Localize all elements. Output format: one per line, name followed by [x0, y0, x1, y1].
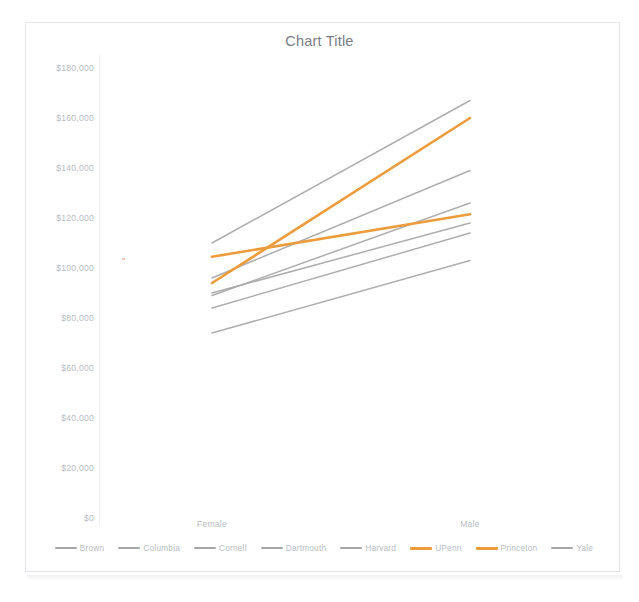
legend-item-label: Yale [576, 543, 593, 553]
legend-swatch-icon [55, 547, 77, 549]
legend-item-label: Dartmouth [286, 543, 327, 553]
legend-item-label: UPenn [435, 543, 461, 553]
legend-swatch-icon [261, 547, 283, 549]
x-axis-category-label: Male [460, 519, 480, 529]
series-lines [0, 0, 639, 602]
legend-item-label: Princeton [501, 543, 538, 553]
legend-swatch-icon [340, 547, 362, 549]
x-axis-category-label: Female [197, 519, 227, 529]
series-line[interactable] [212, 214, 470, 257]
legend-item[interactable]: Cornell [194, 543, 247, 553]
legend-item[interactable]: Dartmouth [261, 543, 327, 553]
legend-swatch-icon [551, 547, 573, 549]
legend-swatch-icon [410, 547, 432, 550]
legend-item[interactable]: Yale [551, 543, 593, 553]
legend-item[interactable]: Harvard [340, 543, 396, 553]
legend-item[interactable]: UPenn [410, 543, 461, 553]
legend-item-label: Brown [80, 543, 105, 553]
legend-swatch-icon [476, 547, 498, 550]
legend-swatch-icon [118, 547, 140, 549]
legend-swatch-icon [194, 547, 216, 549]
legend-item[interactable]: Brown [55, 543, 105, 553]
chart-legend[interactable]: BrownColumbiaCornellDartmouthHarvardUPen… [34, 543, 614, 553]
plot-area[interactable]: FemaleMale [0, 0, 639, 602]
chart-screenshot: Chart Title $180,000$160,000$140,000$120… [0, 0, 639, 602]
stray-mark [122, 258, 125, 260]
legend-item-label: Columbia [143, 543, 180, 553]
legend-item[interactable]: Columbia [118, 543, 180, 553]
series-line[interactable] [212, 171, 470, 279]
legend-item[interactable]: Princeton [476, 543, 538, 553]
legend-item-label: Harvard [365, 543, 396, 553]
legend-item-label: Cornell [219, 543, 247, 553]
